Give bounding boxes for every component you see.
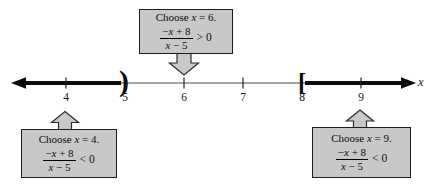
pointer-arrow-up-x4 [52,112,79,131]
choose-statement: Choose x = 6. [156,11,217,24]
choose-word: Choose [156,11,192,23]
inequality-relation: < 0 [80,153,95,165]
choose-value: = 6. [196,11,216,23]
callout-choose-x6: Choose x = 6. −x + 8x − 5 > 0 [139,9,233,54]
choose-word: Choose [39,133,75,145]
fraction: −x + 8x − 5 [160,25,192,52]
fraction-denominator: x − 5 [43,161,75,174]
fraction-numerator: −x + 8 [160,25,192,39]
axis-arrowhead-right [401,77,416,88]
choose-statement: Choose x = 4. [39,133,100,146]
test-expression: −x + 8x − 5 < 0 [336,146,387,173]
test-expression: −x + 8x − 5 < 0 [43,147,94,174]
choose-statement: Choose x = 9. [331,132,392,145]
tick-label-5: 5 [117,92,133,104]
tick-label-7: 7 [235,92,251,104]
fraction: −x + 8x − 5 [336,146,368,173]
axis-variable-label: x [418,76,424,89]
test-expression: −x + 8x − 5 > 0 [160,25,211,52]
axis-arrowhead-left [11,77,26,88]
fraction-denominator: x − 5 [336,160,368,173]
choose-value: = 4. [79,133,99,145]
choose-word: Choose [331,132,367,144]
denominator-rest: − 5 [346,160,363,172]
callout-choose-x4: Choose x = 4. −x + 8x − 5 < 0 [21,129,117,178]
numerator-rest: + 8 [173,25,190,37]
inequality-relation: > 0 [197,31,212,43]
tick-label-9: 9 [353,92,369,104]
pointer-arrow-up-x9 [347,110,374,129]
numerator-rest: + 8 [56,147,73,159]
choose-value: = 9. [372,132,392,144]
denominator-rest: − 5 [53,161,70,173]
tick-label-4: 4 [58,92,74,104]
denominator-rest: − 5 [170,39,187,51]
callout-choose-x9: Choose x = 9. −x + 8x − 5 < 0 [312,127,411,178]
numerator-rest: + 8 [349,146,366,158]
fraction-denominator: x − 5 [160,39,192,52]
fraction-numerator: −x + 8 [43,147,75,161]
fraction: −x + 8x − 5 [43,147,75,174]
fraction-numerator: −x + 8 [336,146,368,160]
pointer-arrow-down-x6 [170,53,199,76]
number-line-figure: ) [ 4 5 6 7 8 9 x Choose x = 6. −x + 8x … [0,0,429,184]
inequality-relation: < 0 [372,152,387,164]
tick-label-8: 8 [294,92,310,104]
tick-label-6: 6 [176,92,192,104]
